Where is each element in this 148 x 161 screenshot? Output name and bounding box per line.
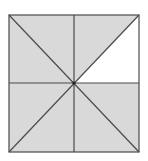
square-diagram: [0, 0, 148, 161]
center-point: [72, 81, 75, 84]
